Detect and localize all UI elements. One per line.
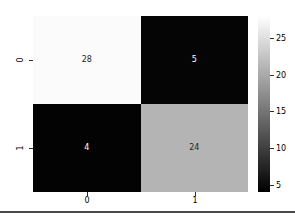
heatmap-cell-value: 4	[84, 144, 89, 152]
heatmap-cell-1-0: 4	[33, 104, 141, 192]
y-tick-label-1: 1	[13, 141, 27, 155]
colorbar-tick-mark	[270, 111, 274, 112]
colorbar-tick-mark	[270, 38, 274, 39]
heatmap-cell-0-1: 5	[141, 16, 249, 104]
colorbar-tick-mark	[270, 75, 274, 76]
heatmap-cell-1-1: 24	[141, 104, 249, 192]
bottom-divider	[0, 211, 295, 213]
colorbar-gradient	[258, 16, 270, 192]
heatmap-cell-value: 5	[192, 56, 197, 64]
heatmap-axes: 28 5 4 24	[33, 16, 248, 192]
y-tick-mark-1	[29, 148, 33, 149]
colorbar-tick-label: 25	[276, 34, 286, 43]
figure-canvas: 28 5 4 24 0 1 0 1 252015105	[0, 0, 295, 221]
x-tick-label-0: 0	[78, 196, 96, 205]
y-tick-mark-0	[29, 60, 33, 61]
colorbar-tick-label: 5	[276, 180, 281, 189]
colorbar-tick-label: 10	[276, 144, 286, 153]
colorbar-tick-label: 15	[276, 107, 286, 116]
x-tick-label-1: 1	[186, 196, 204, 205]
colorbar-tick-mark	[270, 185, 274, 186]
heatmap-cell-0-0: 28	[33, 16, 141, 104]
heatmap-cell-value: 28	[82, 56, 92, 64]
colorbar	[258, 16, 270, 192]
colorbar-tick-label: 20	[276, 70, 286, 79]
y-tick-label-0: 0	[13, 53, 27, 67]
colorbar-tick-mark	[270, 148, 274, 149]
heatmap-cell-value: 24	[189, 144, 199, 152]
